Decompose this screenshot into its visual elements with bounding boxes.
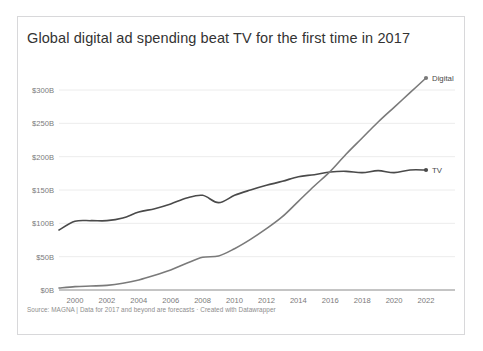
y-tick-label: $250B xyxy=(18,119,54,128)
series-label-digital: Digital xyxy=(432,74,454,83)
line-chart-svg xyxy=(18,17,466,336)
y-tick-label: $100B xyxy=(18,219,54,228)
endpoint-dot-tv xyxy=(424,168,428,172)
x-tick-label: 2010 xyxy=(226,296,243,305)
x-tick-label: 2000 xyxy=(67,296,84,305)
x-tick-label: 2012 xyxy=(258,296,275,305)
x-tick-label: 2004 xyxy=(130,296,147,305)
x-tick-label: 2014 xyxy=(290,296,307,305)
chart-card: Global digital ad spending beat TV for t… xyxy=(17,16,465,335)
y-tick-label: $50B xyxy=(18,252,54,261)
x-tick-label: 2018 xyxy=(354,296,371,305)
x-tick-label: 2022 xyxy=(418,296,435,305)
chart-source-note: Source: MAGNA | Data for 2017 and beyond… xyxy=(27,306,276,313)
x-tick-label: 2008 xyxy=(194,296,211,305)
endpoint-dot-digital xyxy=(424,76,428,80)
y-tick-label: $200B xyxy=(18,152,54,161)
y-tick-label: $150B xyxy=(18,186,54,195)
x-tick-label: 2002 xyxy=(98,296,115,305)
x-tick-label: 2006 xyxy=(162,296,179,305)
y-tick-label: $300B xyxy=(18,86,54,95)
x-tick-label: 2016 xyxy=(322,296,339,305)
series-line-tv xyxy=(59,170,426,230)
series-label-tv: TV xyxy=(432,166,442,175)
gridlines xyxy=(59,90,455,290)
plot-area: $0B$50B$100B$150B$200B$250B$300B 2000200… xyxy=(18,17,466,336)
x-tick-label: 2020 xyxy=(386,296,403,305)
y-tick-label: $0B xyxy=(18,286,54,295)
